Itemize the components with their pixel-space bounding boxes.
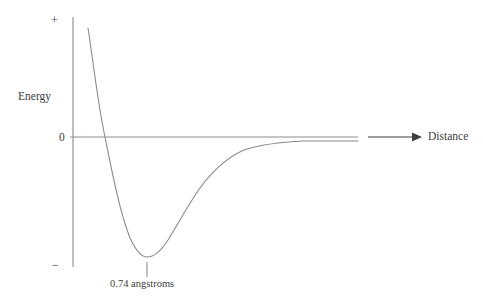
y-axis-zero-label: 0 xyxy=(59,132,65,144)
x-axis-title: Distance xyxy=(428,131,468,143)
potential-energy-curve xyxy=(88,28,358,257)
bond-length-annotation: 0.74 angstroms xyxy=(110,279,174,290)
y-axis-title: Energy xyxy=(18,91,51,103)
potential-energy-diagram: Energy Distance 0 + − 0.74 angstroms xyxy=(0,0,483,296)
y-axis-negative-marker: − xyxy=(52,259,59,271)
y-axis-positive-marker: + xyxy=(51,14,58,26)
distance-arrow-head xyxy=(412,133,422,142)
plot-canvas xyxy=(0,0,483,296)
